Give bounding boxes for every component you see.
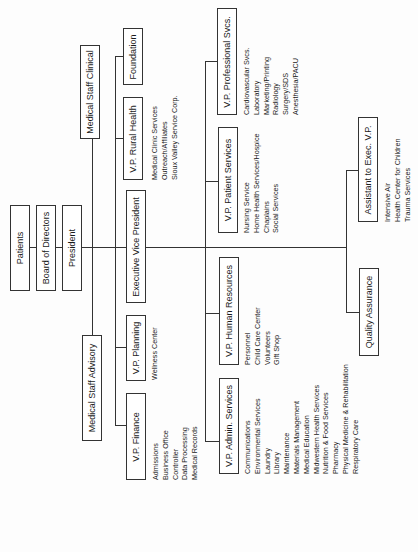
list-item: Radiology	[271, 47, 281, 115]
admin-connector	[205, 441, 219, 442]
board-box: Board of Directors	[36, 205, 56, 291]
list-item: Materials Management	[292, 364, 302, 474]
finance-label: V.P. Finance	[131, 412, 141, 462]
admin-list: Communications Environmental Services La…	[243, 364, 361, 474]
list-item: Social Services	[271, 134, 281, 233]
list-item: Physical Medicine & Rehabilitation	[341, 364, 351, 474]
hr-connector	[205, 313, 219, 314]
list-item: Marketing/Printing	[262, 47, 272, 115]
list-item: Controller	[171, 426, 181, 480]
list-item: Midwestern Health Services	[312, 364, 322, 474]
evp-box: Executive Vice President	[126, 190, 146, 303]
professional-list: Cardiovascular Svcs. Laboratory Marketin…	[242, 47, 301, 115]
list-item: Surgery/SDS	[281, 47, 291, 115]
finance-box: V.P. Finance	[126, 393, 146, 480]
admin-box: V.P. Admin. Services	[219, 378, 239, 474]
list-item: Volunteers	[263, 307, 273, 365]
patient-services-label: V.P. Patient Services	[223, 139, 233, 222]
org-chart: Patients Board of Directors President Me…	[0, 0, 418, 552]
list-item: Library	[272, 364, 282, 474]
list-item: Child Care Center	[253, 307, 263, 365]
list-item: Outreach/Affiliates	[160, 95, 170, 180]
professional-box: V.P. Professional Svcs.	[217, 8, 237, 115]
president-reports-vertical-line	[115, 56, 116, 426]
list-item: Gift Shop	[272, 307, 282, 365]
medical-staff-advisory-box: Medical Staff Advisory	[82, 335, 102, 441]
rural-health-box: V.P. Rural Health	[123, 97, 143, 180]
list-item: Communications	[243, 364, 253, 474]
assistant-label: Assistant to Exec. V.P.	[363, 125, 373, 214]
hr-list: Personnel Child Care Center Volunteers G…	[243, 307, 282, 365]
medical-staff-clinical-box: Medical Staff Clinical	[80, 45, 100, 139]
planning-list: Wellness Center	[150, 327, 160, 380]
list-item: Anesthesia/PACU	[291, 47, 301, 115]
list-item: Pharmacy	[331, 364, 341, 474]
assistant-box: Assistant to Exec. V.P.	[358, 117, 378, 222]
list-item: Respiratory Care	[351, 364, 361, 474]
list-item: Medical Clinic Services	[150, 95, 160, 180]
list-item: Medical Records	[190, 426, 200, 480]
list-item: Maintenance	[282, 364, 292, 474]
foundation-label: Foundation	[128, 34, 138, 79]
rural-health-list: Medical Clinic Services Outreach/Affilia…	[150, 95, 179, 180]
patients-label: Patients	[15, 232, 25, 265]
assistant-list: Intensive Air Health Center for Children…	[383, 139, 412, 223]
evp-label: Executive Vice President	[131, 197, 141, 296]
professional-label: V.P. Professional Svcs.	[222, 16, 232, 108]
medical-staff-clinical-label: Medical Staff Clinical	[85, 50, 95, 133]
evp-reports-vertical-line	[205, 61, 206, 441]
evp-staff-vertical-line	[346, 170, 347, 313]
planning-connector	[115, 347, 126, 348]
finance-connector	[115, 425, 126, 426]
list-item: Medical Education	[302, 364, 312, 474]
assistant-connector	[346, 170, 358, 171]
list-item: Health Center for Children	[393, 139, 403, 223]
hr-label: V.P. Human Resources	[224, 265, 234, 357]
board-label: Board of Directors	[41, 212, 51, 285]
president-label: President	[67, 229, 77, 267]
patient-connector	[205, 181, 218, 182]
list-item: Business Office	[161, 426, 171, 480]
list-item: Nursing Service	[242, 134, 252, 233]
planning-label: V.P. Planning	[131, 322, 141, 375]
president-box: President	[62, 205, 82, 291]
list-item: Laboratory	[252, 47, 262, 115]
finance-list: Admissions Business Office Controller Da…	[151, 426, 200, 480]
planning-box: V.P. Planning	[126, 315, 146, 381]
list-item: Wellness Center	[150, 327, 160, 380]
list-item: Nutrition & Food Services	[321, 364, 331, 474]
medical-staff-advisory-label: Medical Staff Advisory	[87, 344, 97, 432]
list-item: Laundry	[263, 364, 273, 474]
quality-label: Quality Assurance	[364, 276, 374, 349]
patient-services-list: Nursing Service Home Health Services/Hos…	[242, 134, 281, 233]
list-item: Chaplains	[262, 134, 272, 233]
professional-connector	[205, 61, 217, 62]
admin-label: V.P. Admin. Services	[224, 385, 234, 467]
patient-services-box: V.P. Patient Services	[218, 127, 238, 233]
list-item: Admissions	[151, 426, 161, 480]
list-item: Cardiovascular Svcs.	[242, 47, 252, 115]
rural-health-label: V.P. Rural Health	[128, 105, 138, 173]
foundation-box: Foundation	[123, 28, 143, 85]
patients-box: Patients	[10, 205, 30, 291]
list-item: Home Health Services/Hospice	[252, 134, 262, 233]
quality-connector	[346, 312, 359, 313]
medical-staff-vertical-line	[92, 120, 93, 338]
list-item: Sioux Valley Service Corp.	[170, 95, 180, 180]
list-item: Data Processing	[180, 426, 190, 480]
list-item: Environmental Services	[253, 364, 263, 474]
hr-box: V.P. Human Resources	[219, 257, 239, 365]
quality-box: Quality Assurance	[359, 268, 379, 356]
list-item: Intensive Air	[383, 139, 393, 223]
list-item: Trauma Services	[403, 139, 413, 223]
list-item: Personnel	[243, 307, 253, 365]
